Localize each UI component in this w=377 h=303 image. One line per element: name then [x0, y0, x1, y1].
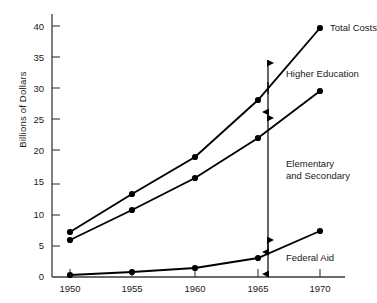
series-total-costs	[67, 25, 323, 235]
y-axis-ticks	[52, 26, 60, 246]
axis-lines	[52, 14, 345, 277]
series-elementary-and-secondary	[67, 88, 323, 243]
series-federal-aid	[67, 228, 323, 278]
